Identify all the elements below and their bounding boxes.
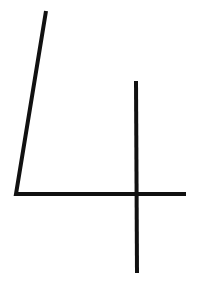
digit-four-drawing [0, 0, 202, 291]
vertical-stroke [136, 81, 137, 273]
diagonal-and-base-stroke [16, 11, 186, 194]
